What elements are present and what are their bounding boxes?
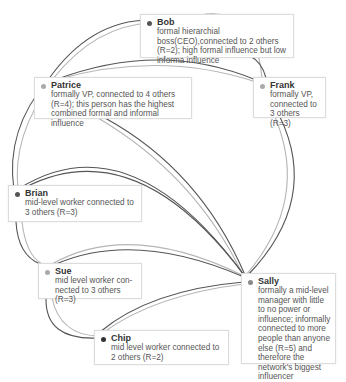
node-dot-icon — [45, 270, 50, 275]
edge-brian-sue — [16, 222, 40, 264]
node-name: Sally — [258, 276, 331, 286]
node-dot-icon — [15, 192, 20, 197]
edge-bob-patrice — [48, 20, 150, 80]
node-patrice: Patrice formally VP, connected to 4 othe… — [34, 77, 192, 119]
node-name: Brian — [25, 188, 137, 198]
node-description: formally VP, connected to 4 others (R=4)… — [51, 90, 187, 128]
node-description: mid level worker con-nected to 3 others … — [55, 276, 137, 305]
node-frank: Frank formally VP, connected to 3 others… — [253, 77, 326, 118]
node-sue: Sue mid level worker con-nected to 3 oth… — [38, 263, 142, 299]
node-sally: Sally formally a mid-level manager with … — [241, 273, 336, 364]
node-description: mid level worker connected to 2 others (… — [111, 343, 224, 362]
edge-frank-sally-b — [246, 117, 287, 275]
edge-frank-sally — [248, 117, 294, 275]
node-name: Chip — [111, 333, 224, 343]
node-dot-icon — [147, 21, 152, 26]
node-dot-icon — [41, 84, 46, 89]
node-brian: Brian mid-level worker connected to 3 ot… — [8, 185, 142, 222]
node-name: Patrice — [51, 80, 187, 90]
node-description: mid-level worker connected to 3 others (… — [25, 198, 137, 217]
edge-brian-sue-b — [22, 222, 42, 264]
node-description: formally a mid-level manager with little… — [258, 286, 331, 382]
node-chip: Chip mid level worker connected to 2 oth… — [94, 330, 229, 365]
node-dot-icon — [260, 84, 265, 89]
node-description: formally VP, connected to 3 others (R=3) — [270, 90, 321, 128]
node-dot-icon — [248, 280, 253, 285]
node-name: Frank — [270, 80, 321, 90]
node-bob: Bob formal hierarchial boss(CEO),connect… — [140, 14, 294, 58]
node-name: Bob — [157, 17, 289, 27]
node-dot-icon — [101, 337, 106, 342]
node-description: formal hierarchial boss(CEO),connected t… — [157, 27, 289, 65]
node-name: Sue — [55, 266, 137, 276]
